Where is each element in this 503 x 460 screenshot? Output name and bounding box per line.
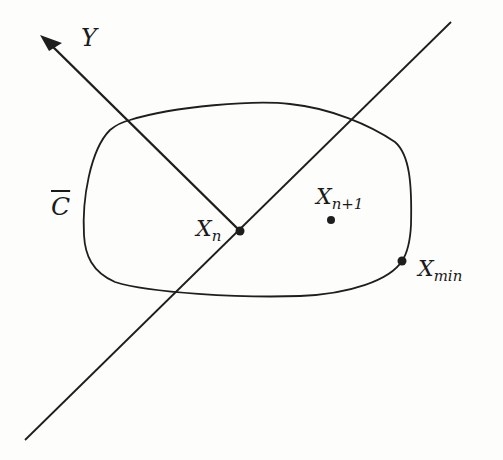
label-y: Y [81,26,97,50]
label-x-n1-main: X [316,184,332,209]
label-c-bar: C [51,194,70,219]
label-x-n-plus-1: Xn+1 [316,186,363,212]
arrowhead-icon [40,35,62,51]
label-x-min-sub: min [434,267,463,285]
label-x-n-sub: n [212,227,222,245]
label-x-min-main: X [418,256,434,281]
point-x-min [398,257,407,266]
label-c-bar-text: C [51,192,70,221]
point-x-n [236,227,245,236]
label-x-n1-sub: n+1 [332,195,364,213]
label-x-min: Xmin [418,258,462,284]
point-x-n-plus-1 [327,216,335,224]
y-direction-arrow [48,42,240,231]
label-y-text: Y [81,24,97,52]
label-x-n-main: X [196,216,212,241]
diagram-canvas: Y C Xn Xn+1 Xmin [0,0,503,460]
diagram-graphics [0,0,503,460]
label-x-n: Xn [196,218,221,244]
